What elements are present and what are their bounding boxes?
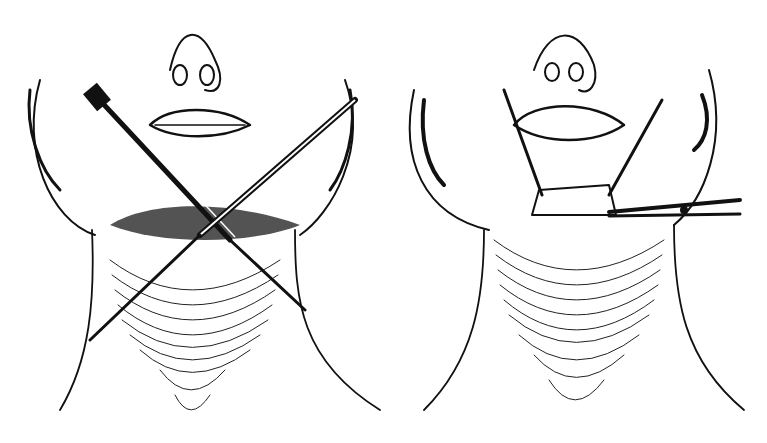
left-illustration-panel <box>0 0 383 443</box>
left-retractor-hook <box>504 90 542 195</box>
left-nostril <box>545 63 559 81</box>
neck-hatching <box>110 260 280 410</box>
left-neck-drawing <box>0 0 383 443</box>
neck-hatching <box>494 240 664 400</box>
left-ear <box>29 90 60 190</box>
incision-flap <box>532 185 616 215</box>
forceps-instrument <box>83 83 305 310</box>
lips <box>514 106 624 140</box>
left-jaw-outline <box>34 80 95 235</box>
neck-left-outline <box>424 230 484 410</box>
right-nostril <box>200 65 214 85</box>
clamp-instrument <box>609 200 740 216</box>
neck-right-outline <box>295 230 380 410</box>
neck-right-outline <box>674 225 744 410</box>
right-neck-drawing <box>384 0 767 443</box>
nose <box>534 36 595 92</box>
lips <box>150 110 250 136</box>
left-ear <box>423 100 444 185</box>
left-nostril <box>173 65 187 85</box>
right-retractor-hook <box>609 100 662 195</box>
neck-left-outline <box>60 230 93 410</box>
right-nostril <box>569 63 583 81</box>
right-illustration-panel <box>384 0 767 443</box>
right-ear <box>694 95 707 150</box>
